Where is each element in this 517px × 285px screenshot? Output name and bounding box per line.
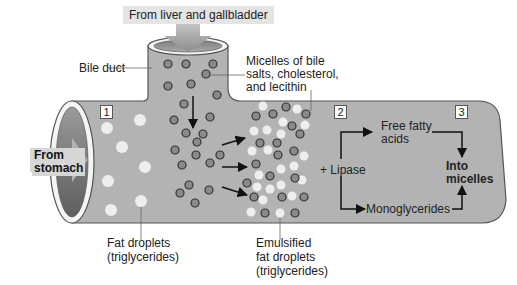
step-1-box: 1 (100, 105, 113, 119)
free-fatty-acids-line2: acids (381, 133, 409, 146)
fat-droplets-label-line1: Fat droplets (107, 237, 170, 250)
from-stomach-label: From stomach (32, 148, 85, 176)
emulsified-label-line2: fat droplets (256, 251, 315, 264)
liver-gallbladder-banner: From liver and gallbladder (123, 6, 274, 24)
lipase-label: + Lipase (320, 164, 366, 177)
monoglycerides-label: Monoglycerides (366, 203, 450, 216)
bile-duct-label: Bile duct (79, 62, 125, 75)
emulsified-label-line3: (triglycerides) (256, 265, 328, 278)
step-3-box: 3 (455, 105, 468, 119)
digestion-diagram: From liver and gallbladder Bile duct Mic… (0, 0, 517, 285)
step-2-box: 2 (334, 105, 347, 119)
into-micelles-line2: micelles (446, 173, 493, 186)
micelles-label-line3: and lecithin (246, 81, 307, 94)
from-stomach-line2: stomach (34, 162, 83, 175)
fat-droplets-label-line2: (triglycerides) (107, 251, 179, 264)
emulsified-label-line1: Emulsified (256, 237, 311, 250)
